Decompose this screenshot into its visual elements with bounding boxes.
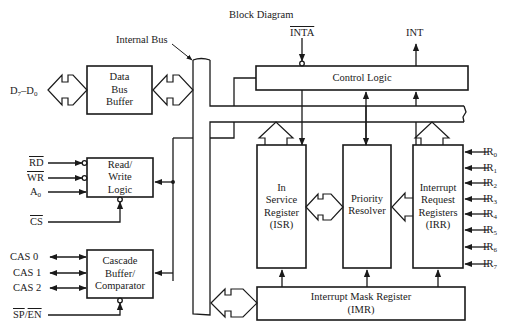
signal-cas1: CAS 1 (13, 267, 41, 279)
signal-a0: A0 (30, 186, 41, 198)
cascade-buffer-comparator: Cascade Buffer/ Comparator (87, 250, 153, 298)
interrupt-request-registers: Interrupt Request Registers (IRR) (413, 145, 463, 268)
signal-ir0: IR0 (483, 146, 497, 158)
signal-cs: CS (30, 216, 43, 228)
interrupt-mask-register: Interrupt Mask Register (IMR) (257, 287, 465, 320)
signal-cas0: CAS 0 (10, 251, 38, 263)
read-write-logic: Read/ Write Logic (87, 158, 153, 197)
data-bus-buffer: Data Bus Buffer (87, 66, 152, 114)
diagram-title: Block Diagram (229, 9, 293, 21)
signal-ir1: IR1 (483, 162, 497, 174)
signal-sp-en: SP/EN (13, 309, 42, 321)
signal-cas2: CAS 2 (13, 282, 41, 294)
signal-ir6: IR6 (483, 241, 497, 253)
signal-wr: WR (27, 172, 44, 184)
internal-bus-label: Internal Bus (116, 34, 168, 46)
signal-int: INT (406, 27, 424, 39)
signal-ir5: IR5 (483, 224, 497, 236)
signal-ir3: IR3 (483, 193, 497, 205)
priority-resolver: Priority Resolver (343, 145, 391, 265)
control-logic: Control Logic (256, 66, 468, 90)
in-service-register: In Service Register (ISR) (257, 145, 306, 268)
signal-data-bus: D7–D0 (10, 85, 37, 97)
signal-inta: INTA (290, 27, 314, 39)
signal-ir7: IR7 (483, 258, 497, 270)
signal-ir4: IR4 (483, 208, 497, 220)
signal-rd: RD (29, 157, 44, 169)
signal-ir2: IR2 (483, 177, 497, 189)
